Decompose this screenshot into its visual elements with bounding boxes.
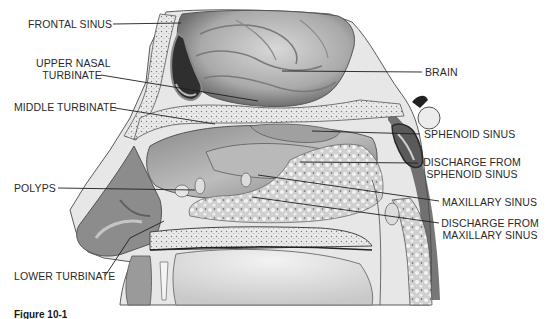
label-maxillary-sinus: MAXILLARY SINUS xyxy=(442,196,537,208)
label-polyps: POLYPS xyxy=(14,182,56,194)
upper-lip xyxy=(126,256,152,305)
label-brain: BRAIN xyxy=(425,66,458,78)
label-discharge-sphenoid-line2: SPHENOID SINUS xyxy=(420,168,524,180)
label-lower-turbinate: LOWER TURBINATE xyxy=(14,270,115,282)
label-sphenoid-sinus: SPHENOID SINUS xyxy=(424,128,515,140)
label-upper-nasal-turbinate-line2: TURBINATE xyxy=(36,69,108,81)
polyp xyxy=(195,178,205,194)
label-discharge-sphenoid: DISCHARGE FROM SPHENOID SINUS xyxy=(420,156,524,180)
label-discharge-maxillary-line1: DISCHARGE FROM xyxy=(440,217,540,229)
polyp xyxy=(175,185,189,197)
label-discharge-maxillary-line2: MAXILLARY SINUS xyxy=(440,229,540,241)
nasal-sinus-diagram: FRONTAL SINUS UPPER NASAL TURBINATE MIDD… xyxy=(0,0,550,319)
label-discharge-sphenoid-line1: DISCHARGE FROM xyxy=(420,156,524,168)
label-upper-nasal-turbinate-line1: UPPER NASAL xyxy=(36,57,108,69)
pituitary xyxy=(418,107,440,129)
figure-caption: Figure 10-1 xyxy=(14,309,67,319)
label-frontal-sinus: FRONTAL SINUS xyxy=(28,18,112,30)
label-discharge-maxillary: DISCHARGE FROM MAXILLARY SINUS xyxy=(440,217,540,241)
label-upper-nasal-turbinate: UPPER NASAL TURBINATE xyxy=(36,57,108,81)
adenoid xyxy=(385,203,399,225)
polyp xyxy=(241,173,251,187)
label-middle-turbinate: MIDDLE TURBINATE xyxy=(14,101,117,113)
